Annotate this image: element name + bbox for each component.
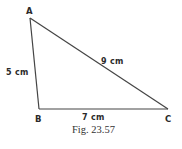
vertex-label-b: B xyxy=(35,114,41,124)
side-label-ab: 5 cm xyxy=(6,68,29,77)
side-ac xyxy=(30,18,168,109)
vertex-label-c: C xyxy=(165,114,171,124)
triangle-diagram: A B C 5 cm 9 cm 7 cm Fig. 23.57 xyxy=(0,0,182,149)
side-ab xyxy=(30,18,39,109)
side-label-ac: 9 cm xyxy=(101,57,124,66)
vertex-label-a: A xyxy=(26,6,33,16)
side-label-bc: 7 cm xyxy=(82,113,105,122)
figure-caption: Fig. 23.57 xyxy=(72,124,115,135)
